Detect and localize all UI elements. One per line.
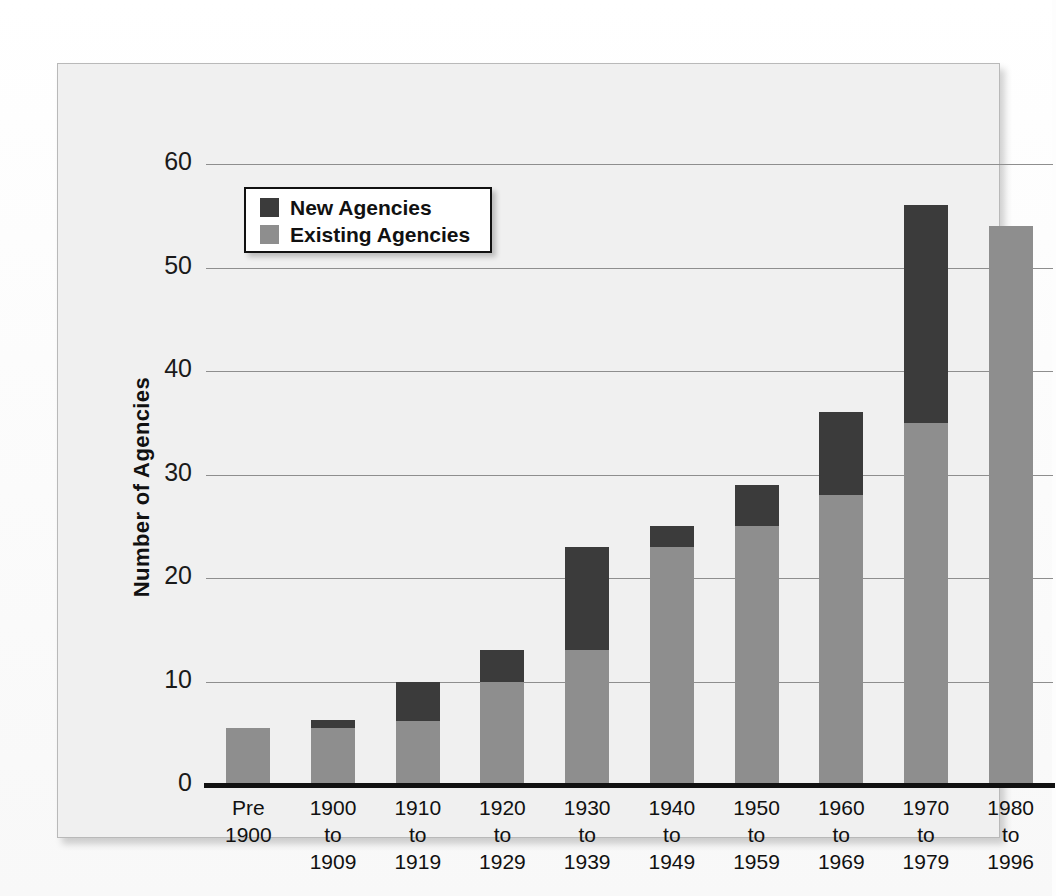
x-tick-label-line: 1996 xyxy=(966,848,1056,875)
y-tick-label-30: 30 xyxy=(132,458,192,487)
x-axis-tick-labels: Pre19001900to19091910to19191920to1929193… xyxy=(206,794,1053,894)
bar-segment-new[interactable] xyxy=(819,412,863,495)
y-tick-label-10: 10 xyxy=(132,665,192,694)
x-tick-label-line: 1909 xyxy=(288,848,378,875)
bar-segment-existing[interactable] xyxy=(565,650,609,785)
x-axis-line xyxy=(204,783,1055,788)
legend-label: Existing Agencies xyxy=(290,223,470,247)
y-axis-tick-labels: 0102030405060 xyxy=(136,164,192,785)
x-tick-label: 1930to1939 xyxy=(542,794,632,875)
legend-swatch-icon xyxy=(260,198,279,217)
bar-segment-existing[interactable] xyxy=(396,721,440,785)
bar-group[interactable] xyxy=(735,164,779,785)
x-tick-label-line: to xyxy=(796,821,886,848)
x-tick-label: Pre1900 xyxy=(203,794,293,848)
bar-segment-existing[interactable] xyxy=(226,728,270,785)
x-tick-label: 1910to1919 xyxy=(373,794,463,875)
bar-group[interactable] xyxy=(989,164,1033,785)
bar-segment-new[interactable] xyxy=(565,547,609,651)
bar-segment-new[interactable] xyxy=(311,720,355,728)
x-tick-label-line: 1900 xyxy=(288,794,378,821)
x-tick-label-line: 1950 xyxy=(712,794,802,821)
x-tick-label-line: to xyxy=(542,821,632,848)
x-tick-label: 1900to1909 xyxy=(288,794,378,875)
x-tick-label-line: 1959 xyxy=(712,848,802,875)
bar-group[interactable] xyxy=(904,164,948,785)
bar-group[interactable] xyxy=(226,164,270,785)
x-tick-label-line: 1930 xyxy=(542,794,632,821)
chart-legend: New AgenciesExisting Agencies xyxy=(244,187,492,253)
x-tick-label: 1940to1949 xyxy=(627,794,717,875)
x-tick-label-line: 1969 xyxy=(796,848,886,875)
y-tick-label-0: 0 xyxy=(132,768,192,797)
bar-segment-existing[interactable] xyxy=(735,526,779,785)
x-tick-label-line: to xyxy=(966,821,1056,848)
legend-entry[interactable]: Existing Agencies xyxy=(260,221,490,248)
x-tick-label: 1970to1979 xyxy=(881,794,971,875)
x-tick-label-line: to xyxy=(288,821,378,848)
x-tick-label-line: 1960 xyxy=(796,794,886,821)
bar-segment-new[interactable] xyxy=(650,526,694,547)
x-tick-label-line: 1979 xyxy=(881,848,971,875)
x-tick-label-line: 1919 xyxy=(373,848,463,875)
x-tick-label-line: 1980 xyxy=(966,794,1056,821)
bar-segment-existing[interactable] xyxy=(480,682,524,786)
bar-segment-existing[interactable] xyxy=(650,547,694,785)
plot-area xyxy=(206,164,1053,785)
x-tick-label-line: to xyxy=(712,821,802,848)
x-tick-label-line: to xyxy=(457,821,547,848)
bar-segment-new[interactable] xyxy=(735,485,779,526)
y-tick-label-60: 60 xyxy=(132,147,192,176)
x-tick-label-line: to xyxy=(881,821,971,848)
x-tick-label-line: 1949 xyxy=(627,848,717,875)
x-tick-label-line: 1940 xyxy=(627,794,717,821)
x-tick-label: 1920to1929 xyxy=(457,794,547,875)
legend-entry[interactable]: New Agencies xyxy=(260,194,490,221)
x-tick-label-line: 1939 xyxy=(542,848,632,875)
x-tick-label: 1950to1959 xyxy=(712,794,802,875)
bar-segment-existing[interactable] xyxy=(819,495,863,785)
x-tick-label-line: 1929 xyxy=(457,848,547,875)
x-tick-label-line: to xyxy=(373,821,463,848)
x-tick-label-line: 1970 xyxy=(881,794,971,821)
bar-segment-new[interactable] xyxy=(480,650,524,681)
bar-segment-existing[interactable] xyxy=(989,226,1033,785)
y-tick-label-20: 20 xyxy=(132,561,192,590)
bar-segment-existing[interactable] xyxy=(311,728,355,785)
bar-group[interactable] xyxy=(565,164,609,785)
x-tick-label-line: 1910 xyxy=(373,794,463,821)
legend-label: New Agencies xyxy=(290,196,432,220)
x-tick-label: 1980to1996 xyxy=(966,794,1056,875)
y-tick-label-50: 50 xyxy=(132,251,192,280)
x-tick-label-line: 1920 xyxy=(457,794,547,821)
bar-group[interactable] xyxy=(480,164,524,785)
bar-group[interactable] xyxy=(396,164,440,785)
x-tick-label-line: 1900 xyxy=(203,821,293,848)
x-tick-label: 1960to1969 xyxy=(796,794,886,875)
x-tick-label-line: to xyxy=(627,821,717,848)
bar-group[interactable] xyxy=(650,164,694,785)
bar-group[interactable] xyxy=(819,164,863,785)
x-tick-label-line: Pre xyxy=(203,794,293,821)
bar-group[interactable] xyxy=(311,164,355,785)
bar-segment-new[interactable] xyxy=(904,205,948,422)
y-tick-label-40: 40 xyxy=(132,354,192,383)
bar-segment-new[interactable] xyxy=(396,682,440,721)
legend-swatch-icon xyxy=(260,225,279,244)
chart-panel: Number of Agencies 0102030405060 Pre1900… xyxy=(57,63,1000,838)
bar-segment-existing[interactable] xyxy=(904,423,948,785)
